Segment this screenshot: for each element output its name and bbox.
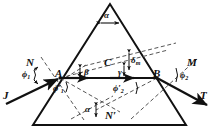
B-to-Nprime-construction xyxy=(96,78,157,110)
gamma-angle-label: γ xyxy=(118,68,122,77)
beta-angle-label: β xyxy=(84,68,89,77)
point-label-B: B xyxy=(153,68,160,79)
phi1-prime-subscript: 1 xyxy=(61,88,64,94)
transmitted-ray-label: T xyxy=(200,90,207,101)
phi1-prime-angle-bracket xyxy=(66,82,68,92)
incident-ray xyxy=(6,79,58,104)
phi1-angle-bracket xyxy=(34,70,36,80)
phi1-angle-tick-bottom xyxy=(34,80,38,84)
construction-line-through-C xyxy=(84,43,176,66)
right-normal-label: M xyxy=(187,57,197,68)
phi2-prime-angle-bracket xyxy=(136,82,138,94)
refraction-angle-2-label: ϕ′2 xyxy=(113,84,124,94)
point-label-C: C xyxy=(104,57,111,68)
prism-diagram-figure: α N M A B C J T N′ ϕ1 ϕ′1 ϕ′2 ϕ2 β γ δm … xyxy=(0,0,215,132)
point-label-A: A xyxy=(55,68,62,79)
phi1-angle-tick-top xyxy=(34,67,38,70)
incident-ray-label: J xyxy=(3,90,9,101)
phi1-prime-symbol: ϕ′ xyxy=(53,83,61,93)
deviation-angle-label: δm xyxy=(131,56,140,66)
base-alpha-angle-label: α xyxy=(85,105,90,114)
emergence-angle-2-label: ϕ2 xyxy=(180,71,188,81)
phi2-subscript: 2 xyxy=(185,75,188,81)
phi2-prime-subscript: 2 xyxy=(121,88,124,94)
left-normal-label: N xyxy=(26,57,34,68)
delta-subscript: m xyxy=(136,60,141,66)
incidence-angle-1-label: ϕ1 xyxy=(22,70,30,80)
apex-angle-label: α xyxy=(104,11,109,20)
refraction-angle-1-label: ϕ′1 xyxy=(53,84,64,94)
phi2-angle-bracket xyxy=(176,68,178,82)
incident-ray-extension xyxy=(60,50,168,78)
phi2-prime-symbol: ϕ′ xyxy=(113,83,121,93)
base-normal-construction xyxy=(60,78,120,112)
phi1-subscript: 1 xyxy=(27,74,30,80)
base-normal-label: N′ xyxy=(105,110,116,121)
